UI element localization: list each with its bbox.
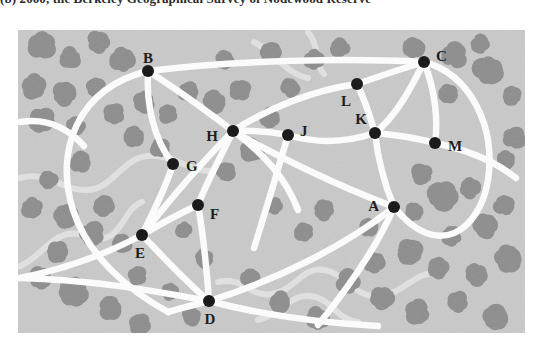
- figure-caption: (b) 2000, the Berkeley Geographical Surv…: [0, 0, 549, 7]
- figure-root: (b) 2000, the Berkeley Geographical Surv…: [0, 0, 549, 351]
- paper-grain-overlay: [18, 30, 525, 333]
- map-container: ABCDEFGHJKLM: [18, 30, 525, 333]
- map-svg: ABCDEFGHJKLM: [18, 30, 525, 333]
